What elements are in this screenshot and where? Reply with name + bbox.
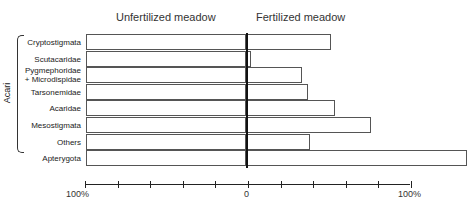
bar-fertilized bbox=[246, 34, 331, 50]
right-panel-title: Fertilized meadow bbox=[256, 11, 345, 23]
bar-fertilized bbox=[246, 67, 302, 83]
bar-unfertilized bbox=[86, 100, 246, 116]
bar-fertilized bbox=[246, 100, 335, 116]
bar-unfertilized bbox=[86, 150, 246, 166]
bar-unfertilized bbox=[86, 117, 246, 133]
row-label: Tarsonemidae bbox=[31, 88, 81, 97]
bar-unfertilized bbox=[86, 51, 246, 67]
row-label: Pygmephoridae+ Microdispidae bbox=[25, 66, 81, 84]
axis-tick bbox=[411, 181, 412, 188]
axis-tick bbox=[313, 181, 314, 188]
bar-fertilized bbox=[246, 150, 467, 166]
row-label: Apterygota bbox=[42, 154, 81, 163]
acari-bracket bbox=[17, 35, 24, 153]
axis-tick bbox=[281, 181, 282, 188]
row-label: Scutacaridae bbox=[34, 55, 81, 64]
row-label: Mesostigmata bbox=[31, 121, 81, 130]
axis-label-right-100: 100% bbox=[398, 189, 421, 199]
bar-fertilized bbox=[246, 84, 308, 100]
group-label-acari: Acari bbox=[2, 83, 12, 104]
axis-tick bbox=[346, 181, 347, 188]
bar-unfertilized bbox=[86, 84, 246, 100]
axis-tick bbox=[150, 181, 151, 188]
row-label: Acaridae bbox=[49, 104, 81, 113]
axis-tick bbox=[378, 181, 379, 188]
bar-unfertilized bbox=[86, 67, 246, 83]
bar-unfertilized bbox=[86, 134, 246, 150]
axis-tick bbox=[215, 181, 216, 188]
row-label: Cryptostigmata bbox=[27, 38, 81, 47]
row-label: Others bbox=[57, 138, 81, 147]
bar-fertilized bbox=[246, 117, 371, 133]
axis-tick bbox=[248, 181, 249, 188]
zero-line bbox=[246, 33, 248, 168]
bar-fertilized bbox=[246, 134, 310, 150]
axis-tick bbox=[118, 181, 119, 188]
bar-unfertilized bbox=[86, 34, 246, 50]
axis-tick bbox=[183, 181, 184, 188]
axis-label-left-100: 100% bbox=[66, 189, 89, 199]
axis-label-zero: 0 bbox=[244, 189, 249, 199]
left-panel-title: Unfertilized meadow bbox=[116, 11, 216, 23]
axis-tick bbox=[85, 181, 86, 188]
